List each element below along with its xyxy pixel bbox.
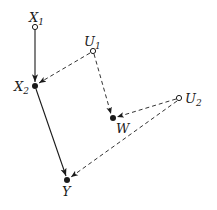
node-y xyxy=(64,177,70,183)
edge-u1-to-x2 xyxy=(39,53,90,83)
label-u1: U1 xyxy=(84,34,101,51)
edge-u2-to-w xyxy=(117,99,176,117)
label-u2: U2 xyxy=(185,91,202,108)
edge-u2-to-y xyxy=(71,101,177,177)
edge-x2-to-y xyxy=(36,89,66,176)
label-x2: X2 xyxy=(13,79,29,96)
node-x1 xyxy=(32,24,37,29)
causal-diagram: X1 U1 X2 W U2 Y xyxy=(0,0,217,210)
edge-u1-to-w xyxy=(94,54,111,114)
label-x1: X1 xyxy=(28,10,44,27)
node-x2 xyxy=(32,83,38,89)
node-u2 xyxy=(176,95,181,100)
label-y: Y xyxy=(62,184,72,199)
label-w: W xyxy=(116,121,131,136)
